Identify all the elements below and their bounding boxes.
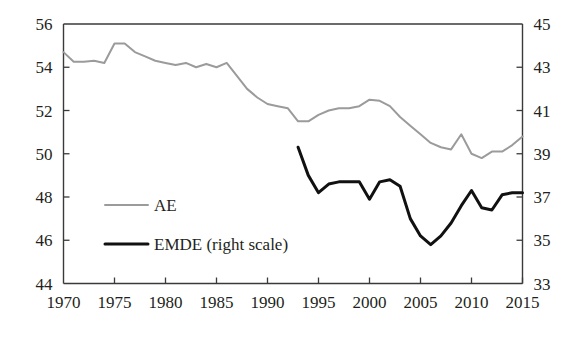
chart-background [0, 0, 580, 339]
x-tick-label-1990: 1990 [251, 293, 285, 312]
legend-label-ae: AE [154, 196, 177, 215]
right-tick-label-37: 37 [534, 188, 552, 207]
x-tick-label-2010: 2010 [455, 293, 489, 312]
line-chart: 44464850525456 33353739414345 1970197519… [0, 0, 580, 339]
right-tick-label-45: 45 [534, 15, 551, 34]
x-tick-label-1970: 1970 [47, 293, 81, 312]
x-tick-label-1975: 1975 [98, 293, 132, 312]
x-tick-label-1980: 1980 [149, 293, 183, 312]
x-tick-label-2005: 2005 [404, 293, 438, 312]
chart-container: 44464850525456 33353739414345 1970197519… [0, 0, 580, 339]
x-tick-label-2000: 2000 [353, 293, 387, 312]
right-tick-label-33: 33 [534, 275, 551, 294]
x-tick-label-1985: 1985 [200, 293, 234, 312]
left-tick-label-46: 46 [36, 231, 53, 250]
right-tick-label-41: 41 [534, 102, 551, 121]
left-tick-label-56: 56 [36, 15, 53, 34]
x-tick-label-1995: 1995 [302, 293, 336, 312]
left-tick-label-54: 54 [36, 58, 54, 77]
right-tick-label-39: 39 [534, 145, 551, 164]
left-tick-label-44: 44 [36, 275, 54, 294]
right-tick-label-43: 43 [534, 58, 551, 77]
right-tick-label-35: 35 [534, 231, 551, 250]
left-tick-label-52: 52 [36, 102, 53, 121]
left-tick-label-48: 48 [36, 188, 53, 207]
legend-label-emde: EMDE (right scale) [154, 235, 288, 254]
x-tick-label-2015: 2015 [506, 293, 540, 312]
left-tick-label-50: 50 [36, 145, 53, 164]
